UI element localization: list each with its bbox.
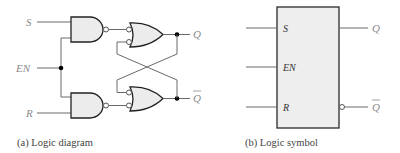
nand-output-bubble-lower: [104, 103, 109, 108]
gated-sr-latch-figure: S EN R Q Q: [0, 0, 400, 153]
nand-gate-lower: [71, 93, 103, 118]
caption-a: (a) Logic diagram: [17, 137, 93, 149]
input-label-s: S: [26, 16, 32, 28]
nand-output-bubble-upper: [104, 27, 109, 32]
symbol-input-label-en: EN: [282, 62, 297, 73]
panel-a-logic-diagram: S EN R Q Q: [15, 16, 201, 149]
or-gate-lower: [130, 87, 163, 111]
symbol-output-label-q: Q: [372, 22, 380, 34]
or-input-bubble-upper-1: [127, 27, 132, 32]
or-input-bubble-lower-1: [127, 90, 132, 95]
or-input-bubble-lower-2: [127, 103, 132, 108]
output-label-q-bar: Q: [193, 92, 201, 104]
symbol-output-bubble-qbar: [340, 105, 345, 110]
panel-b-logic-symbol: S EN R Q Q (b) Logic symbol: [245, 7, 380, 149]
input-label-en: EN: [15, 62, 31, 74]
symbol-input-label-r: R: [282, 102, 289, 113]
nand-gate-upper: [71, 17, 103, 42]
input-label-r: R: [25, 107, 33, 119]
output-label-q: Q: [193, 28, 201, 40]
or-gate-upper: [130, 23, 163, 47]
symbol-input-label-s: S: [283, 23, 288, 34]
wire-en-upper: [61, 38, 71, 68]
junction-dot-en: [59, 66, 64, 71]
wire-en-lower: [61, 68, 71, 97]
or-input-bubble-upper-2: [127, 40, 132, 45]
caption-b: (b) Logic symbol: [245, 137, 318, 149]
symbol-output-label-q-bar: Q: [372, 101, 380, 113]
